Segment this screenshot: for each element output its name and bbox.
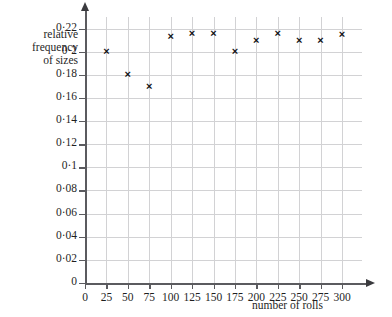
data-point-marker: × bbox=[101, 46, 112, 57]
y-axis-tick bbox=[79, 260, 85, 261]
data-point-marker: × bbox=[208, 28, 219, 39]
gridline-horizontal bbox=[85, 144, 362, 145]
data-point-marker: × bbox=[251, 35, 262, 46]
x-axis-tick bbox=[85, 283, 86, 289]
y-axis-tick-label: 0·22 bbox=[39, 21, 77, 33]
data-point-marker: × bbox=[122, 69, 133, 80]
y-axis-tick bbox=[79, 29, 85, 30]
y-axis-tick bbox=[79, 75, 85, 76]
data-point-marker: × bbox=[294, 35, 305, 46]
y-axis-tick-label: 0·12 bbox=[39, 136, 77, 148]
gridline-vertical bbox=[321, 17, 322, 283]
gridline-horizontal bbox=[85, 260, 362, 261]
gridline-vertical bbox=[278, 17, 279, 283]
gridline-horizontal bbox=[85, 121, 362, 122]
data-point-marker: × bbox=[337, 29, 348, 40]
data-point-marker: × bbox=[187, 28, 198, 39]
y-axis-arrow-icon bbox=[81, 2, 89, 11]
y-axis-tick-label: 0·2 bbox=[39, 44, 77, 56]
x-axis-tick bbox=[214, 283, 215, 289]
gridline-horizontal bbox=[85, 214, 362, 215]
data-point-marker: × bbox=[229, 46, 240, 57]
gridline-horizontal bbox=[85, 167, 362, 168]
gridline-vertical bbox=[171, 17, 172, 283]
x-axis-tick bbox=[106, 283, 107, 289]
x-axis-tick bbox=[321, 283, 322, 289]
gridline-horizontal bbox=[85, 237, 362, 238]
gridline-vertical bbox=[149, 17, 150, 283]
y-axis-tick-label: 0·16 bbox=[39, 90, 77, 102]
x-axis-tick bbox=[235, 283, 236, 289]
gridline-vertical bbox=[256, 17, 257, 283]
gridline-horizontal bbox=[85, 52, 362, 53]
y-axis-tick-label: 0·08 bbox=[39, 182, 77, 194]
y-axis-tick bbox=[79, 237, 85, 238]
x-axis-tick bbox=[192, 283, 193, 289]
y-axis-tick bbox=[79, 98, 85, 99]
y-axis-tick-label: 0·06 bbox=[39, 206, 77, 218]
y-axis-tick-label: 0·1 bbox=[39, 159, 77, 171]
y-axis-tick-label: 0·14 bbox=[39, 113, 77, 125]
x-axis-arrow-icon bbox=[366, 279, 375, 287]
x-axis-tick bbox=[128, 283, 129, 289]
gridline-horizontal bbox=[85, 29, 362, 30]
y-axis-tick-label: 0·04 bbox=[39, 229, 77, 241]
x-axis-tick-label: 300 bbox=[322, 291, 362, 303]
x-axis-tick bbox=[278, 283, 279, 289]
gridline-vertical bbox=[299, 17, 300, 283]
x-axis-tick bbox=[299, 283, 300, 289]
gridline-horizontal bbox=[85, 190, 362, 191]
y-axis-tick bbox=[79, 167, 85, 168]
y-axis-tick-label: 0 bbox=[39, 275, 77, 287]
x-axis-tick bbox=[342, 283, 343, 289]
data-point-marker: × bbox=[315, 35, 326, 46]
y-axis-line bbox=[85, 10, 87, 284]
gridline-vertical bbox=[342, 17, 343, 283]
y-axis-tick bbox=[79, 121, 85, 122]
gridline-vertical bbox=[128, 17, 129, 283]
y-axis-tick bbox=[79, 190, 85, 191]
data-point-marker: × bbox=[272, 28, 283, 39]
data-point-marker: × bbox=[144, 81, 155, 92]
gridline-horizontal bbox=[85, 98, 362, 99]
y-axis-tick bbox=[79, 283, 85, 284]
gridline-vertical bbox=[192, 17, 193, 283]
data-point-marker: × bbox=[165, 31, 176, 42]
chart-figure: relative frequency of sizes ××××××××××××… bbox=[0, 0, 392, 317]
plot-area: ×××××××××××× bbox=[85, 17, 362, 283]
y-axis-tick-labels: 00·020·040·060·080·10·120·140·160·180·20… bbox=[37, 0, 77, 317]
y-axis-tick bbox=[79, 214, 85, 215]
y-axis-tick bbox=[79, 144, 85, 145]
x-axis-tick bbox=[149, 283, 150, 289]
y-axis-tick bbox=[79, 52, 85, 53]
x-axis-tick bbox=[171, 283, 172, 289]
y-axis-tick-label: 0·02 bbox=[39, 252, 77, 264]
y-axis-tick-label: 0·18 bbox=[39, 67, 77, 79]
gridline-vertical bbox=[214, 17, 215, 283]
x-axis-tick bbox=[256, 283, 257, 289]
